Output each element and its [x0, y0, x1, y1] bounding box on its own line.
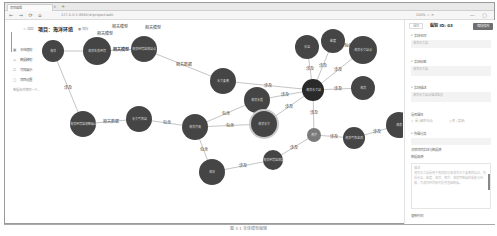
field-label-desc: * 实体描述 [411, 85, 426, 90]
radio-yes[interactable]: ○ 是 (属性节点) [411, 119, 433, 123]
edge-label: 涉及 [373, 128, 381, 134]
url-input[interactable]: 127.0.0.1:8080/#/project/edit [61, 13, 291, 18]
node-label: 海洋环境监测站点 [132, 46, 156, 51]
project-title: 项目：海洋环境 [38, 25, 73, 32]
property-panel: 属性 编辑 ID: 03 保存修改 * 实体名称 海洋水文站 * 实体标签 海洋… [404, 20, 495, 224]
radio-label: 是否属性 [411, 112, 423, 117]
edge-label: 包含 [222, 110, 230, 116]
zoom-star-menu[interactable]: 100% ☆ ≡ [416, 13, 434, 17]
attribute-radio-group[interactable]: ○ 是 (属性节点) ○ 否 (实体) [411, 119, 465, 123]
warning-icon: ⚠ [13, 55, 16, 65]
desc-text: 海洋水文站是用于观测和记录海洋水文要素的站点，包括水温、盐度、海流、潮汐、海浪等… [414, 171, 488, 186]
node-label: 海洋环境监测数据点 [70, 121, 97, 126]
edge-label: 涉及 [334, 85, 342, 91]
radio-no[interactable]: ○ 否 (实体) [449, 119, 465, 123]
edge-label: 相关模型 [145, 24, 161, 30]
node-label: 盐度 [330, 38, 336, 43]
section-label: 数据来源 [411, 154, 423, 159]
save-changes-button[interactable]: 保存修改 [473, 23, 493, 30]
node-label: 海洋水文 [258, 121, 270, 126]
node-label: 海洋水文站点 [354, 47, 372, 52]
node-label: 海洋水文站 [306, 87, 321, 92]
edge-label: 相关数据 [103, 118, 119, 124]
node-label: 水文气象站 [132, 116, 147, 121]
edge-label: 涉及 [330, 133, 338, 139]
node-label: 潮汐 [311, 132, 317, 137]
tab-properties[interactable]: 属性 [409, 23, 423, 29]
edge-label: 涉及 [290, 144, 298, 150]
node-label: 水温 [304, 44, 310, 49]
sidebar-item-merge[interactable]: 数据合并等同一个... [13, 85, 53, 95]
project-header: < 返回 项目：海洋环境 ● 保存 [23, 23, 109, 33]
divider [11, 32, 12, 52]
entity-tag-input[interactable]: 海洋水文站 [411, 66, 491, 76]
field-label-category: * 所属分类 [411, 131, 426, 136]
edge-label: 涉及 [306, 65, 314, 71]
sidebar-item-visual[interactable]: ☐可视展示 [13, 65, 53, 75]
browser-tab[interactable]: 项目编辑 [7, 4, 53, 11]
node-label: 海洋环境监测站 [263, 157, 284, 162]
new-tab-icon[interactable]: + [61, 3, 65, 9]
node-label: 海洋水质 [251, 97, 263, 102]
edge-label: 包含 [200, 146, 208, 152]
model-icon: ▣ [13, 45, 16, 55]
view-icon: ☐ [13, 65, 16, 75]
sidebar-item-settings[interactable]: ▢项目设置 [13, 75, 53, 85]
window-controls-icon[interactable]: — ▢ [470, 12, 490, 18]
browser-window: 项目编辑 × + ← → ⟳ ⌂ 127.0.0.1:8080/#/projec… [4, 2, 495, 224]
edge-label: 涉及 [239, 162, 247, 168]
panel-header: 属性 编辑 ID: 03 保存修改 [409, 22, 493, 30]
close-tab-icon[interactable]: × [53, 4, 56, 9]
figure-caption: 图 3-1 本体模型编辑 [0, 225, 497, 231]
save-status-badge[interactable]: ● 保存 [78, 26, 88, 31]
node-label: 海洋气象监测 [345, 135, 363, 140]
edge-label: 相关数据 [176, 61, 192, 67]
edge-label: 涉及 [310, 109, 318, 115]
knowledge-graph[interactable]: 相关模型相关模型相关数据涉及相关数据包含包含包含包含涉及涉及涉及涉及涉及包含涉及… [5, 20, 403, 224]
entity-name-input[interactable]: 海洋水文站 [411, 40, 491, 48]
edge-label: 涉及 [285, 103, 293, 109]
edge-label: 涉及 [64, 84, 72, 90]
edge-label: 涉及 [334, 66, 342, 72]
node-label: 海冰 [209, 169, 215, 174]
field-label-name: * 实体名称 [411, 33, 426, 38]
node-label: 海浪 [396, 122, 402, 127]
footer-label: 更新时间 [411, 213, 423, 218]
link-text[interactable]: 关联项目实体与数据源 [411, 147, 441, 152]
description-textarea[interactable]: 描述 海洋水文站是用于观测和记录海洋水文要素的站点，包括水温、盐度、海流、潮汐、… [411, 163, 491, 209]
sidebar-item-mapping[interactable]: ⚠数据映射 [13, 55, 53, 65]
entity-desc-input[interactable]: 海洋水文站点描述信息 [411, 92, 491, 102]
back-link[interactable]: < 返回 [23, 26, 33, 31]
edge-label: 包含 [226, 122, 234, 128]
edge-label: 包含 [163, 119, 171, 125]
sidebar-item-ontology[interactable]: ▣本体建模 [13, 45, 53, 55]
sidebar-menu: ▣本体建模 ⚠数据映射 ☐可视展示 ▢项目设置 数据合并等同一个... [13, 45, 53, 95]
edge-label: 涉及 [281, 91, 289, 97]
field-label-tag: * 实体标签 [411, 59, 426, 64]
category-select[interactable] [411, 138, 491, 145]
edge-label: 涉及 [319, 62, 327, 68]
address-bar: ← → ⟳ ⌂ 127.0.0.1:8080/#/project/edit 10… [5, 11, 494, 20]
tab-bar: 项目编辑 × + [5, 3, 494, 11]
node-label: 海洋污染 [189, 124, 201, 129]
tab-edit[interactable]: 编辑 ID: 03 [427, 23, 456, 29]
edge-label: 相关模型 [112, 23, 128, 29]
navigation-icons[interactable]: ← → ⟳ ⌂ [9, 12, 44, 18]
edge-label: 相关模型 [113, 46, 129, 52]
scrollbar[interactable] [488, 174, 490, 190]
graph-canvas[interactable]: 相关模型相关模型相关数据涉及相关数据包含包含包含包含涉及涉及涉及涉及涉及包含涉及… [5, 20, 403, 224]
edge-label: 涉及 [264, 82, 272, 88]
node-label: 海洋生态环境 [88, 48, 106, 53]
node-label: 水文要素 [217, 78, 229, 83]
node-label: 海流 [360, 85, 366, 90]
settings-icon: ▢ [13, 75, 16, 85]
